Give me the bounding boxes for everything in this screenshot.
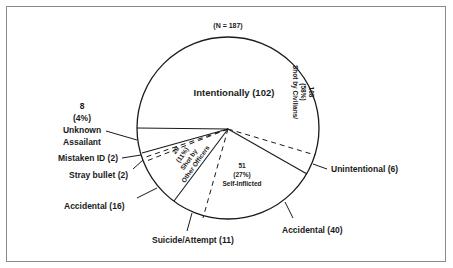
leader-unknown (106, 131, 137, 140)
label-suicide-attempt: Suicide/Attempt (11) (152, 235, 234, 245)
n-label: (N = 187) (213, 22, 242, 30)
label-intentionally: Intentionally (102) (194, 87, 275, 98)
label-stray-bullet: Stray bullet (2) (69, 170, 128, 180)
svg-text:51: 51 (238, 162, 246, 169)
leader-mistaken (122, 155, 141, 158)
leader-suicide (187, 213, 192, 231)
label-unknown-assailant: 8 (4%) Unknown Assailant (63, 101, 101, 147)
leader-unintentional (313, 164, 327, 169)
svg-text:(58%): (58%) (299, 83, 307, 100)
svg-text:Assailant: Assailant (63, 137, 101, 147)
leader-accidental16 (137, 188, 157, 198)
svg-text:(4%): (4%) (73, 113, 91, 123)
label-unintentional: Unintentional (6) (331, 164, 398, 174)
label-accidental-40: Accidental (40) (282, 225, 343, 235)
svg-text:8: 8 (80, 101, 85, 111)
svg-text:108: 108 (308, 87, 315, 98)
pie-chart: (N = 187) Intentionally (102) 108 (58%) … (0, 0, 453, 268)
svg-text:Self-Inflicted: Self-Inflicted (222, 180, 261, 187)
label-mistaken-id: Mistaken ID (2) (58, 153, 118, 163)
leader-stray (133, 160, 143, 169)
leader-accidental40 (285, 202, 293, 218)
svg-text:(27%): (27%) (233, 171, 250, 179)
svg-text:Shot by Civilians/: Shot by Civilians/ (291, 65, 299, 119)
label-accidental-16: Accidental (16) (64, 201, 125, 211)
svg-text:Unknown: Unknown (63, 125, 101, 135)
